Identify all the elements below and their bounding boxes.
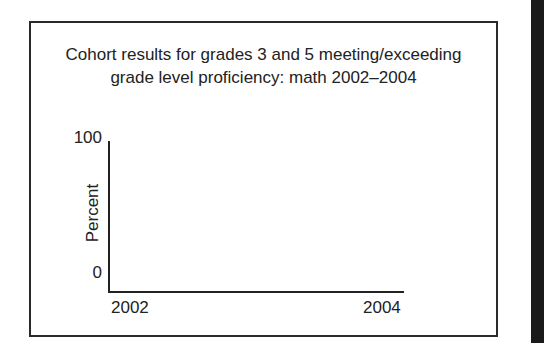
chart-title-line-1: Cohort results for grades 3 and 5 meetin… [29,43,498,66]
y-tick-100: 100 [62,128,102,148]
x-tick-2004: 2004 [363,298,401,318]
x-axis-line [108,291,404,293]
chart-title-line-2: grade level proficiency: math 2002–2004 [29,66,498,89]
y-axis-line [108,141,110,293]
y-axis-label: Percent [83,184,103,243]
y-tick-0: 0 [62,263,102,283]
page-edge-bar [531,0,544,343]
x-tick-2002: 2002 [111,298,149,318]
chart-title: Cohort results for grades 3 and 5 meetin… [29,43,498,89]
